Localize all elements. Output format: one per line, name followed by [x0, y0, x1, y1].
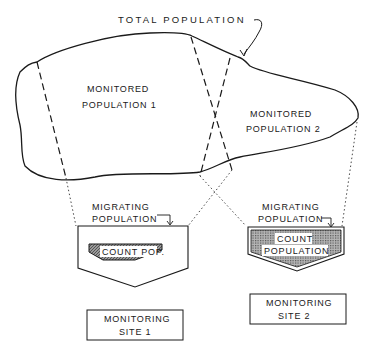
total-population-label: TOTAL POPULATION [118, 14, 246, 25]
region1-label-line1: MONITORED [87, 84, 149, 94]
site1-monitoring-label-line1: MONITORING [104, 314, 170, 324]
site2-migrating-label-line1: MIGRATING [262, 202, 320, 212]
total-population-arrow [244, 20, 262, 54]
population-monitoring-diagram: TOTAL POPULATION MONITORED POPULATION 1 … [0, 0, 370, 351]
projection-line-site1-right [188, 170, 232, 226]
region2-label-line1: MONITORED [250, 109, 312, 119]
site1-monitoring-label-line2: SITE 1 [119, 327, 151, 337]
site1-migrating-label-line2: POPULATION [92, 214, 157, 224]
boundary-line-left [37, 62, 66, 178]
site2-migrating-label-line2: POPULATION [258, 214, 323, 224]
site1-migrating-arrow-icon [157, 215, 173, 225]
arrowhead-icon [240, 49, 247, 56]
projection-line-site2-right [342, 122, 357, 226]
site2-count-label-line2: POPULATION [264, 246, 329, 256]
boundary-line-region2-left [200, 58, 230, 176]
site2-count-label-line1: COUNT [277, 234, 313, 244]
site1-count-label: COUNT POP. [102, 247, 165, 257]
region2-label-line2: POPULATION 2 [246, 124, 320, 134]
site1-migrating-label-line1: MIGRATING [92, 202, 150, 212]
region1-label-line2: POPULATION 1 [82, 100, 156, 110]
projection-line-site1-left [66, 178, 76, 226]
site2-monitoring-label-line2: SITE 2 [278, 311, 310, 321]
boundary-line-region1-right [191, 37, 232, 170]
projection-line-site2-left [200, 176, 246, 226]
site2-monitoring-label-line1: MONITORING [266, 298, 332, 308]
total-population-outline [16, 33, 358, 180]
